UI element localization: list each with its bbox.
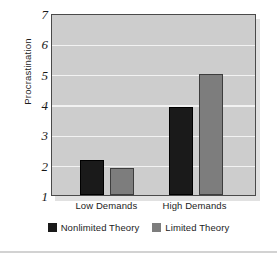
legend-label: Nonlimited Theory [61,222,140,233]
legend-swatch-icon [48,223,57,232]
bar [80,160,104,195]
x-tick-label: Low Demands [75,200,137,211]
y-tick-label: 1 [30,190,48,203]
y-tick-label: 5 [30,68,48,81]
bar-group [169,15,223,195]
bar [199,74,223,195]
y-tick-label: 7 [30,8,48,21]
y-axis-tick-labels: 1234567 [30,14,48,196]
chart-legend: Nonlimited TheoryLimited Theory [0,222,277,233]
legend-item: Nonlimited Theory [48,222,140,233]
bar [169,107,193,195]
x-tick-label: High Demands [162,200,226,211]
bars-layer [52,15,255,195]
legend-swatch-icon [152,223,161,232]
plot-area [51,14,256,196]
y-tick-label: 3 [30,129,48,142]
bar-group [80,15,134,195]
bottom-divider [0,251,277,253]
y-tick-label: 2 [30,159,48,172]
bar [110,168,134,195]
x-axis-tick-labels: Low DemandsHigh Demands [51,200,256,216]
y-tick-label: 6 [30,38,48,51]
y-tick-label: 4 [30,99,48,112]
bar-chart-figure: Procrastination 1234567 Low DemandsHigh … [0,0,277,257]
legend-item: Limited Theory [152,222,229,233]
legend-label: Limited Theory [165,222,229,233]
